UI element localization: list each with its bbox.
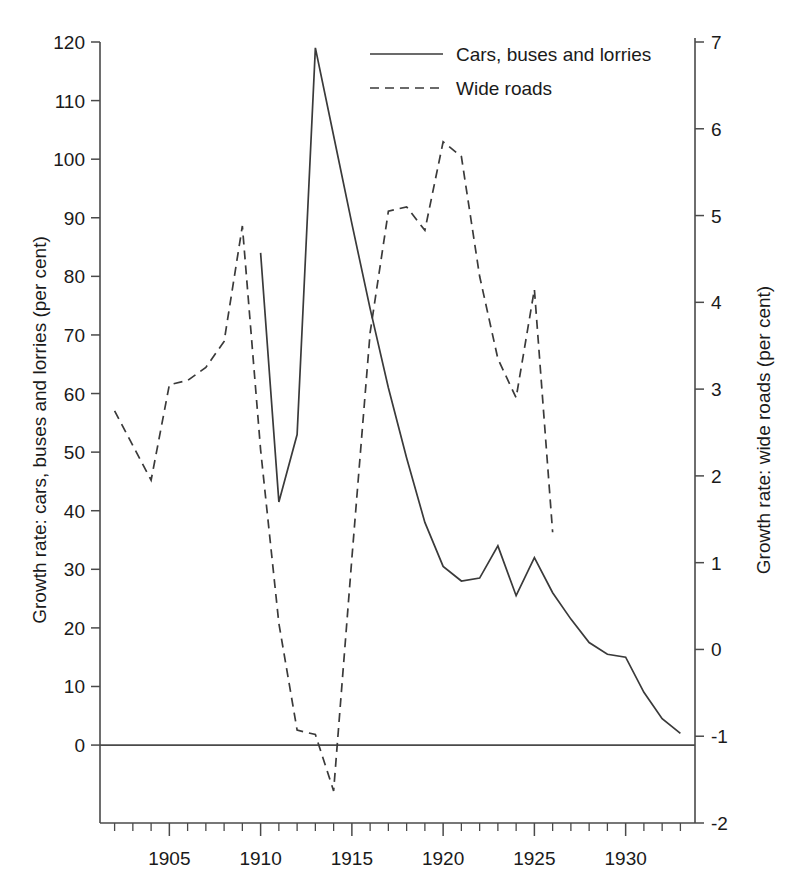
right-tick-label: 6 xyxy=(711,119,722,140)
right-tick-label: -1 xyxy=(711,726,728,747)
x-tick-label: 1925 xyxy=(513,848,555,869)
left-tick-label: 90 xyxy=(64,208,85,229)
chart-canvas: 0102030405060708090100110120 -2-10123456… xyxy=(0,0,799,894)
right-tick-label: 7 xyxy=(711,32,722,53)
legend-label-wide-roads: Wide roads xyxy=(456,78,552,99)
left-tick-label: 120 xyxy=(53,32,85,53)
right-tick-label: 3 xyxy=(711,379,722,400)
right-axis-title: Growth rate: wide roads (per cent) xyxy=(753,286,774,574)
x-tick-label: 1905 xyxy=(148,848,190,869)
x-tick-label: 1930 xyxy=(605,848,647,869)
x-tick-label: 1920 xyxy=(422,848,464,869)
x-tick-label: 1915 xyxy=(331,848,373,869)
right-tick-label: 2 xyxy=(711,466,722,487)
right-tick-label: 4 xyxy=(711,292,722,313)
left-tick-label: 10 xyxy=(64,676,85,697)
right-tick-label: 1 xyxy=(711,553,722,574)
legend-label-cars-buses-lorries: Cars, buses and lorries xyxy=(456,44,651,65)
left-tick-label: 100 xyxy=(53,149,85,170)
left-axis-title: Growth rate: cars, buses and lorries (pe… xyxy=(29,236,50,624)
left-tick-label: 80 xyxy=(64,266,85,287)
left-tick-label: 50 xyxy=(64,442,85,463)
left-tick-label: 60 xyxy=(64,384,85,405)
left-tick-label: 40 xyxy=(64,501,85,522)
left-tick-label: 20 xyxy=(64,618,85,639)
right-tick-label: -2 xyxy=(711,813,728,834)
right-tick-label: 0 xyxy=(711,639,722,660)
x-tick-label: 1910 xyxy=(239,848,281,869)
right-tick-label: 5 xyxy=(711,206,722,227)
chart-background xyxy=(0,0,799,894)
left-tick-label: 30 xyxy=(64,559,85,580)
left-tick-label: 110 xyxy=(55,91,85,112)
left-tick-label: 0 xyxy=(74,735,85,756)
chart-figure: 0102030405060708090100110120 -2-10123456… xyxy=(0,0,799,894)
left-tick-label: 70 xyxy=(64,325,85,346)
